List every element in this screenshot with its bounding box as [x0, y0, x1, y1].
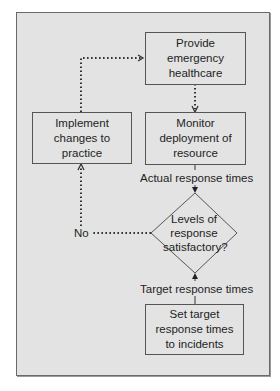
node-label: Set target response times to incidents [150, 307, 239, 352]
decision-label: Levels of response satisfactory? [151, 193, 237, 273]
node-label: Provide emergency healthcare [150, 36, 241, 81]
edge-label-actual-response-times: Actual response times [140, 171, 252, 185]
node-label: Monitor deployment of resource [150, 116, 241, 161]
node-provide-emergency-healthcare: Provide emergency healthcare [145, 32, 246, 85]
node-set-target-response-times: Set target response times to incidents [145, 304, 244, 355]
node-label: Implement changes to practice [37, 116, 127, 161]
edge-label-no: No [74, 226, 89, 240]
edge-implement-to-provide [81, 55, 143, 112]
edge-label-target-response-times: Target response times [140, 282, 252, 296]
node-implement-changes: Implement changes to practice [32, 112, 132, 164]
edge-provide-to-monitor [192, 84, 198, 112]
decision-text: Levels of response satisfactory? [163, 212, 225, 254]
node-monitor-deployment: Monitor deployment of resource [145, 112, 246, 165]
